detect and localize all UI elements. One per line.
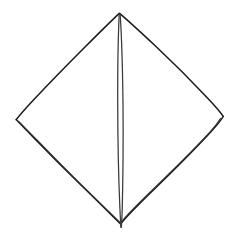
napkin-diagram-canvas	[0, 0, 238, 244]
napkin-diagram-svg	[0, 0, 238, 244]
